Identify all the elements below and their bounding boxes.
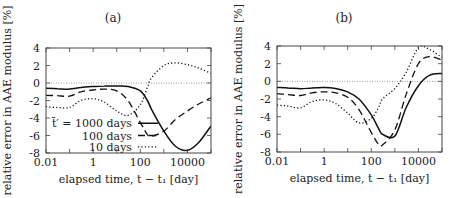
x-tick-label: 1	[321, 155, 328, 168]
y-tick-label: -6	[29, 130, 40, 143]
y-tick-label: -8	[260, 146, 271, 159]
legend: t̄′ = 1000 days100 days10 days	[51, 117, 158, 154]
y-axis-label: relative error in AAE modulus [%]	[232, 4, 245, 194]
x-tick-label: 100	[130, 156, 151, 169]
figure: (a)0.01110010000420-2-4-6-8elapsed time,…	[0, 0, 457, 198]
y-tick-label: -4	[260, 111, 271, 124]
y-tick-label: 0	[33, 77, 40, 90]
series-line-solid	[277, 73, 442, 138]
y-tick-label: 2	[264, 58, 271, 71]
y-axis-label: relative error in AAE modulus [%]	[1, 6, 14, 196]
y-tick-label: 0	[264, 75, 271, 88]
y-tick-label: -6	[260, 128, 271, 141]
legend-label: t̄′ = 1000 days	[51, 117, 132, 130]
y-tick-label: -4	[29, 112, 40, 125]
panel-title: (b)	[335, 11, 352, 25]
legend-label: 10 days	[89, 141, 132, 154]
x-tick-label: 10000	[170, 156, 205, 169]
y-tick-label: -2	[29, 95, 40, 108]
y-tick-label: 2	[33, 60, 40, 73]
x-tick-label: 1	[90, 156, 97, 169]
y-tick-label: -2	[260, 93, 271, 106]
x-tick-label: 100	[361, 155, 382, 168]
y-tick-label: -8	[29, 147, 40, 160]
y-tick-label: 4	[33, 42, 40, 55]
x-tick-label: 10000	[401, 155, 436, 168]
panel-title: (a)	[105, 11, 122, 25]
series-line-dashed	[277, 57, 442, 147]
x-axis-label: elapsed time, t − t₁ [day]	[59, 173, 199, 186]
y-tick-label: 4	[264, 40, 271, 53]
x-axis-label: elapsed time, t − t₁ [day]	[290, 172, 430, 185]
panel-b: (b)0.01110010000420-2-4-6-8elapsed time,…	[232, 4, 442, 194]
panel-a: (a)0.01110010000420-2-4-6-8elapsed time,…	[1, 6, 211, 196]
